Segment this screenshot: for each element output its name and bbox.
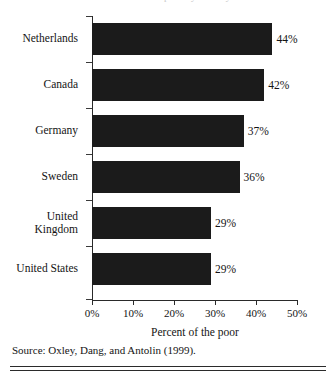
x-axis-tick-label: 0%	[85, 307, 100, 319]
source-note: Source: Oxley, Dang, and Antolin (1999).	[12, 344, 196, 356]
category-label: United States	[0, 246, 78, 292]
bar-sweden	[92, 161, 240, 193]
bar-value-label: 29%	[211, 246, 236, 292]
x-axis-tick-label: 50%	[287, 307, 307, 319]
footer-rule-bottom	[10, 370, 326, 371]
bar-united-states	[92, 253, 211, 285]
cut-off-title-remnant: Percent of the poor by country	[0, 0, 334, 9]
bar-row: Sweden 36%	[0, 154, 334, 200]
x-axis-tick-label: 20%	[164, 307, 184, 319]
x-axis-tick	[215, 300, 216, 305]
bar-value-label: 44%	[272, 16, 297, 62]
bar-netherlands	[92, 23, 272, 55]
category-label: Canada	[0, 62, 78, 108]
bar-value-label: 36%	[240, 154, 265, 200]
bar-row: Canada 42%	[0, 62, 334, 108]
bar-row: Germany 37%	[0, 108, 334, 154]
footer-rule-top	[10, 366, 326, 367]
category-label: United Kingdom	[0, 200, 78, 246]
bar-row: Netherlands 44%	[0, 16, 334, 62]
bar-value-label: 42%	[264, 62, 289, 108]
x-axis-tick	[297, 300, 298, 305]
x-axis-title: Percent of the poor	[92, 326, 298, 338]
bar-canada	[92, 69, 264, 101]
cut-off-title-text: Percent of the poor by country	[103, 0, 231, 1]
bar-row: United States 29%	[0, 246, 334, 292]
bar-germany	[92, 115, 244, 147]
x-axis-tick-label: 10%	[123, 307, 143, 319]
category-label: Germany	[0, 108, 78, 154]
x-axis-line	[92, 300, 298, 301]
bar-value-label: 29%	[211, 200, 236, 246]
x-axis-tick	[92, 300, 93, 305]
category-label: Sweden	[0, 154, 78, 200]
x-axis-tick	[256, 300, 257, 305]
category-label: Netherlands	[0, 16, 78, 62]
bar-row: United Kingdom 29%	[0, 200, 334, 246]
figure-container: Percent of the poor by country Netherlan…	[0, 0, 334, 380]
x-axis-tick-label: 30%	[205, 307, 225, 319]
x-axis-tick-label: 40%	[246, 307, 266, 319]
x-axis-tick	[174, 300, 175, 305]
bar-chart-plot-area: Netherlands 44% Canada 42% Germany 37% S…	[0, 14, 334, 304]
x-axis-tick	[133, 300, 134, 305]
bar-united-kingdom	[92, 207, 211, 239]
bar-value-label: 37%	[244, 108, 269, 154]
